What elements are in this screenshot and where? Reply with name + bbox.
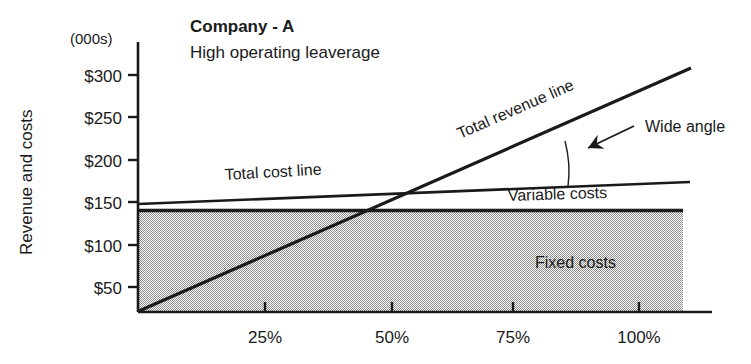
total-cost-line-label: Total cost line [224,161,322,183]
x-tick-label-75: 75% [496,328,530,347]
y-tick-label-300: $300 [84,67,122,86]
cvp-chart-figure: (000s) Company - A High operating leaver… [0,0,751,364]
chart-title: Company - A [190,17,294,36]
units-label: (000s) [70,30,113,47]
wide-angle-label: Wide angle [645,118,725,135]
chart-canvas: (000s) Company - A High operating leaver… [0,0,751,364]
angle-arc [565,141,569,186]
x-tick-label-25: 25% [248,328,282,347]
fixed-costs-label: Fixed costs [535,254,616,271]
y-axis-title: Revenue and costs [17,109,36,255]
y-tick-label-250: $250 [84,109,122,128]
y-axis-ticks [128,75,138,287]
y-tick-label-200: $200 [84,152,122,171]
y-tick-label-100: $100 [84,237,122,256]
y-tick-label-50: $50 [94,279,122,298]
variable-costs-label: Variable costs [508,184,608,204]
x-tick-label-50: 50% [375,328,409,347]
chart-subtitle: High operating leaverage [190,43,380,62]
wide-angle-arrow [588,126,634,148]
y-tick-label-150: $150 [84,194,122,213]
x-tick-label-100: 100% [617,328,660,347]
total-revenue-line-label: Total revenue line [454,76,576,142]
